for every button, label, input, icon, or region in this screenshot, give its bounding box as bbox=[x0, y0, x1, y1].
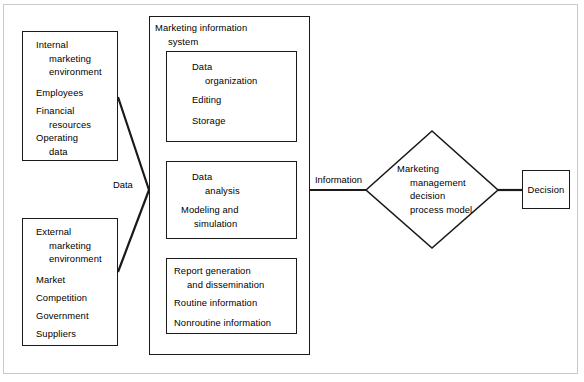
stage-data-organization-item-editing: Editing bbox=[192, 93, 297, 107]
external-environment-item-market: Market bbox=[36, 273, 114, 287]
stage-report-generation-heading: Report generation and dissemination bbox=[174, 264, 310, 291]
stage-report-generation-item-nonroutine-information: Nonroutine information bbox=[174, 316, 297, 330]
stage-data-organization-heading: Data organization bbox=[192, 60, 310, 87]
information-flow-label: Information bbox=[314, 174, 363, 186]
internal-environment-heading: Internal marketing environment bbox=[36, 38, 127, 79]
stage-data-analysis-heading: Data analysis bbox=[192, 170, 310, 197]
marketing-information-system-title: Marketing information system bbox=[155, 21, 318, 48]
external-environment-item-government: Government bbox=[36, 309, 114, 323]
stage-report-generation-item-routine-information: Routine information bbox=[174, 296, 297, 310]
stage-data-analysis-item-modeling-and-simulation: Modeling and simulation bbox=[181, 203, 310, 230]
internal-environment-item-financial-resources: Financial resources bbox=[36, 104, 127, 131]
marketing-information-system-diagram: Internal marketing environment Employees… bbox=[0, 0, 584, 382]
external-environment-item-suppliers: Suppliers bbox=[36, 327, 114, 341]
decision-label: Decision bbox=[522, 183, 570, 197]
internal-environment-item-employees: Employees bbox=[36, 86, 114, 100]
external-environment-heading: External marketing environment bbox=[36, 225, 127, 266]
data-flow-label: Data bbox=[112, 179, 134, 191]
internal-environment-item-operating-data: Operating data bbox=[36, 131, 127, 158]
stage-data-organization-item-storage: Storage bbox=[192, 114, 297, 128]
marketing-management-decision-process-model-label: Marketing management decision process mo… bbox=[397, 162, 514, 216]
external-environment-item-competition: Competition bbox=[36, 291, 114, 305]
